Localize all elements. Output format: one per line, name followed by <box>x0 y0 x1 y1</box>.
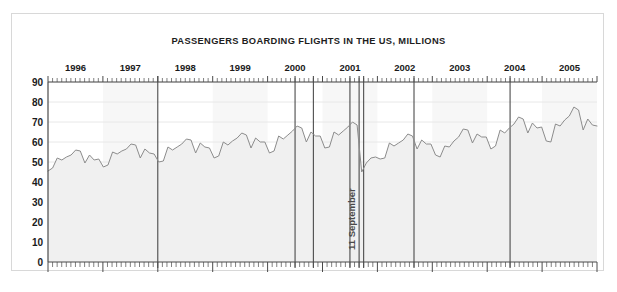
chart-card: PASSENGERS BOARDING FLIGHTS IN THE US, M… <box>11 13 604 271</box>
event-annotation-label: 11 September <box>346 188 357 250</box>
y-tick-label: 10 <box>32 237 44 248</box>
x-tick-label: 2001 <box>339 62 361 73</box>
chart-plot-area: 0102030405060708090 19961997199819992000… <box>12 14 605 272</box>
x-axis-tick-labels: 1996199719981999200020012002200320042005 <box>65 62 581 73</box>
top-axis-ticks <box>48 76 597 82</box>
y-tick-label: 90 <box>32 77 44 88</box>
y-tick-label: 0 <box>37 257 43 268</box>
bottom-axis-ticks <box>48 262 597 272</box>
x-tick-label: 2002 <box>394 62 415 73</box>
x-tick-label: 2004 <box>504 62 526 73</box>
x-tick-label: 1997 <box>120 62 141 73</box>
september-11-annotation: 11 September <box>346 188 357 250</box>
x-tick-label: 2000 <box>284 62 305 73</box>
y-tick-label: 30 <box>32 197 44 208</box>
y-axis-tick-labels: 0102030405060708090 <box>32 77 44 268</box>
y-tick-label: 70 <box>32 117 44 128</box>
y-tick-label: 20 <box>32 217 44 228</box>
y-tick-label: 60 <box>32 137 44 148</box>
x-tick-label: 2005 <box>559 62 581 73</box>
y-tick-label: 50 <box>32 157 44 168</box>
x-tick-label: 2003 <box>449 62 470 73</box>
x-tick-label: 1998 <box>175 62 196 73</box>
x-tick-label: 1996 <box>65 62 86 73</box>
screenshot-root: PASSENGERS BOARDING FLIGHTS IN THE US, M… <box>0 0 617 292</box>
line-chart-svg: 0102030405060708090 19961997199819992000… <box>12 14 605 272</box>
y-tick-label: 40 <box>32 177 44 188</box>
y-tick-label: 80 <box>32 97 44 108</box>
x-tick-label: 1999 <box>230 62 251 73</box>
